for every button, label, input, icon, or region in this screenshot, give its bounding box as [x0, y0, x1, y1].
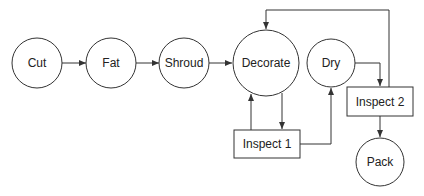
node-shroud[interactable]: Shroud: [159, 38, 209, 88]
node-cut[interactable]: Cut: [12, 38, 62, 88]
node-label: Fat: [102, 56, 120, 70]
node-pack[interactable]: Pack: [356, 138, 404, 186]
node-label: Inspect 2: [356, 95, 405, 109]
node-label: Inspect 1: [243, 137, 292, 151]
node-inspect2[interactable]: Inspect 2: [347, 87, 413, 116]
node-decorate[interactable]: Decorate: [233, 30, 299, 96]
node-label: Pack: [367, 155, 395, 169]
node-dry[interactable]: Dry: [307, 39, 355, 87]
node-fat[interactable]: Fat: [86, 38, 136, 88]
node-label: Shroud: [165, 56, 204, 70]
node-inspect1[interactable]: Inspect 1: [234, 130, 300, 158]
process-flow-diagram: Cut Fat Shroud Decorate Dry Inspect 1 In…: [0, 0, 424, 196]
node-label: Dry: [322, 56, 341, 70]
node-label: Cut: [28, 56, 47, 70]
edge-dry-inspect2: [355, 63, 380, 86]
edge-inspect1-dry: [300, 88, 331, 144]
node-label: Decorate: [242, 56, 291, 70]
